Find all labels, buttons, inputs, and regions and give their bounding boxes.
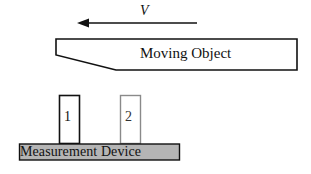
moving-object-label: Moving Object — [140, 45, 231, 62]
sensor-2-label: 2 — [125, 109, 132, 125]
velocity-arrow — [77, 19, 197, 28]
measurement-device-label: Measurement Device — [20, 144, 141, 160]
velocity-label: V — [140, 3, 149, 19]
sensor-1-label: 1 — [64, 109, 71, 125]
